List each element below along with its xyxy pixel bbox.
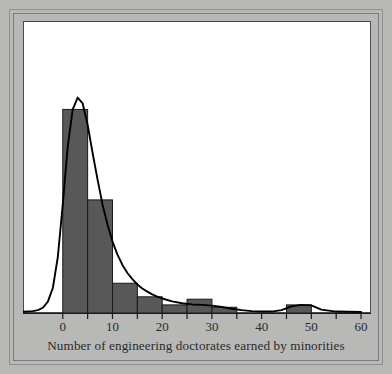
histogram-bar: [162, 305, 187, 313]
histogram-bar: [112, 283, 137, 313]
x-axis-tick-labels: 0102030405060: [23, 316, 371, 336]
figure-container: 0102030405060 Number of engineering doct…: [0, 0, 392, 374]
histogram-bar: [63, 109, 88, 313]
histogram-chart: [23, 21, 371, 339]
x-axis-tick-label: 10: [106, 320, 119, 334]
x-axis-tick-label: 50: [305, 320, 318, 334]
histogram-bar: [137, 297, 162, 313]
x-axis-tick-label: 0: [60, 320, 67, 334]
histogram-bar: [88, 200, 113, 313]
x-axis-caption: Number of engineering doctorates earned …: [0, 338, 392, 354]
x-axis-tick-label: 60: [355, 320, 368, 334]
x-axis-tick-label: 20: [156, 320, 169, 334]
x-axis-tick-label: 40: [255, 320, 268, 334]
histogram-bars: [63, 109, 312, 313]
x-axis-tick-label: 30: [205, 320, 218, 334]
